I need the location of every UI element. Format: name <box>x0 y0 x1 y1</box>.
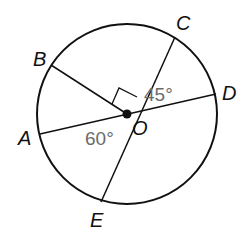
diameter-CE <box>101 37 175 202</box>
center-point <box>123 110 132 119</box>
circle-diagram: B C D A E O 45° 60° <box>0 0 241 234</box>
diagram-canvas <box>0 0 241 234</box>
radius-OB <box>51 65 127 114</box>
right-angle-marker <box>112 88 137 104</box>
